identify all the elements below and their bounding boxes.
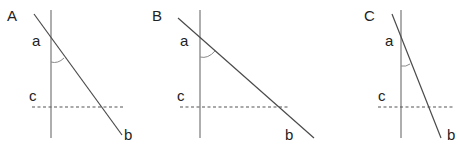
panel-c-title: C [364, 7, 375, 24]
panel-b-line-b-diagonal [178, 18, 314, 138]
panel-b-angle-arc [200, 51, 215, 57]
panel-a-label-c: c [29, 87, 37, 104]
panel-c-label-b: b [447, 126, 455, 143]
panel-a-line-b-diagonal [34, 14, 122, 135]
panel-b-label-a: a [180, 32, 189, 49]
panel-c-label-a: a [385, 32, 394, 49]
panel-c-line-b-diagonal [392, 14, 441, 138]
panel-a-angle-arc [51, 58, 64, 63]
panel-a-title: A [7, 7, 17, 24]
panel-a-label-a: a [32, 32, 41, 49]
panel-a-label-b: b [124, 126, 132, 143]
diagram-canvas: AacbBacbCacb [0, 0, 458, 149]
panel-c-label-c: c [378, 87, 386, 104]
panel-b-title: B [152, 7, 162, 24]
panel-b-label-b: b [285, 126, 293, 143]
panel-c-angle-arc [401, 64, 410, 66]
panel-b-label-c: c [177, 87, 185, 104]
